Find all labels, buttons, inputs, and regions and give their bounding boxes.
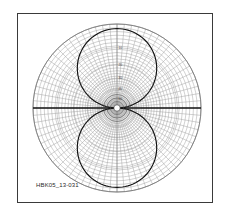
grid-spoke-265	[110, 108, 117, 192]
grid-spoke-355	[117, 108, 201, 115]
radial-tick-label-30db: 30	[119, 76, 123, 80]
radial-tick-label-40db: 40	[119, 87, 123, 91]
radial-tick-label-20db: 20	[119, 63, 123, 67]
grid-spoke-95	[110, 24, 117, 108]
grid-spoke-5	[117, 101, 201, 108]
polar-plot: 1020304050	[0, 0, 230, 219]
radial-tick-label-10db: 10	[119, 46, 123, 50]
figure-id-label: HBK05_13-031	[36, 181, 79, 189]
polar-origin-marker	[114, 105, 120, 111]
figure-container: 1020304050 HBK05_13-031	[0, 0, 230, 219]
grid-spoke-175	[33, 101, 117, 108]
radial-tick-label-50db: 50	[119, 97, 123, 101]
grid-spoke-185	[33, 108, 117, 115]
grid-spoke-275	[117, 108, 124, 192]
